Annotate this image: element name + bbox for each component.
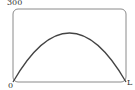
chart-plot bbox=[0, 0, 135, 90]
data-curve bbox=[13, 33, 126, 82]
x-end-label: L bbox=[127, 79, 132, 87]
y-max-label: 300 bbox=[7, 0, 22, 7]
plot-frame bbox=[13, 9, 126, 82]
x-origin-label: 0 bbox=[8, 82, 13, 90]
